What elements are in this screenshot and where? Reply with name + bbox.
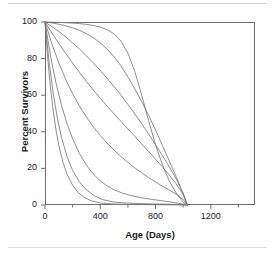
x-tick-label-0: 0 — [28, 211, 62, 221]
survival-curves — [45, 22, 187, 205]
curve-curve-8-exponential — [45, 22, 187, 205]
y-tick-label-80: 80 — [11, 53, 37, 63]
survival-curve-figure: Percent Survivors Age (Days) 02040608010… — [0, 0, 275, 256]
y-tick-label-60: 60 — [11, 89, 37, 99]
y-tick-label-0: 0 — [11, 199, 37, 209]
y-tick-label-100: 100 — [11, 16, 37, 26]
curve-curve-3 — [45, 22, 187, 205]
x-tick-label-400: 400 — [83, 211, 117, 221]
curve-curve-1-rectangular — [45, 22, 187, 205]
y-tick-label-20: 20 — [11, 162, 37, 172]
curve-curve-4 — [45, 22, 187, 205]
curve-curve-5 — [45, 22, 187, 205]
y-axis-title: Percent Survivors — [19, 52, 30, 172]
curve-curve-7 — [45, 22, 187, 205]
x-tick-label-800: 800 — [139, 211, 173, 221]
x-tick-label-1200: 1200 — [194, 211, 228, 221]
curve-curve-2 — [45, 22, 187, 205]
y-tick-label-40: 40 — [11, 126, 37, 136]
curve-curve-6 — [45, 22, 187, 205]
x-axis-title: Age (Days) — [45, 229, 255, 240]
